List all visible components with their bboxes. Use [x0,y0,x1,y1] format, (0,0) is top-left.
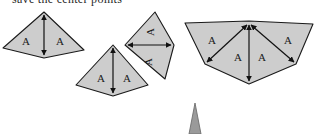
region-label-3b: A [142,58,154,66]
narrow-spike [189,103,201,134]
geometry-figure: A A A A A A A A A A [0,0,318,134]
region-label-2a: A [97,72,105,84]
region-label-4a: A [208,34,216,46]
region-label-3a: A [144,28,156,36]
shape-group-hinged-kites: A A A A [76,12,174,96]
region-label-4d: A [284,34,292,46]
region-label-1b: A [56,35,64,47]
shape-group-triangle-fan: A A A A [185,21,313,84]
region-label-2b: A [123,72,131,84]
shape-group-narrow-spike [189,103,201,134]
region-label-4c: A [258,51,266,63]
figure-canvas: A A A A A A A A A A [0,0,318,134]
region-label-1a: A [22,35,30,47]
region-label-4b: A [234,51,242,63]
shape-group-single-kite: A A [3,12,84,58]
